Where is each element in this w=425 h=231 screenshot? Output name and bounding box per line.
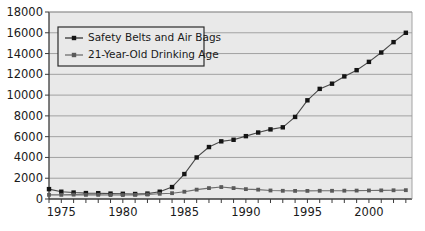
data-point-marker	[72, 193, 76, 197]
data-point-marker	[293, 189, 297, 193]
data-point-marker	[207, 186, 211, 190]
data-point-marker	[318, 87, 322, 91]
y-tick-label-10000: 10000	[6, 88, 43, 102]
data-point-marker	[47, 187, 51, 191]
data-point-marker	[244, 187, 248, 191]
data-point-marker	[391, 40, 395, 44]
data-point-marker	[146, 193, 150, 197]
data-point-marker	[330, 189, 334, 193]
legend-item-safety-belts-and-air-bags[interactable]: Safety Belts and Air Bags	[65, 31, 221, 43]
data-point-marker	[354, 68, 358, 72]
data-point-marker	[170, 185, 174, 189]
data-point-marker	[379, 188, 383, 192]
data-point-marker	[244, 134, 248, 138]
data-point-marker	[256, 130, 260, 134]
chart-legend[interactable]: Safety Belts and Air Bags21-Year-Old Dri…	[58, 27, 221, 66]
data-point-marker	[404, 31, 408, 35]
y-axis-tick-labels: 0200040006000800010000120001400016000180…	[6, 5, 43, 206]
data-point-marker	[318, 189, 322, 193]
data-point-marker	[281, 189, 285, 193]
data-point-marker	[367, 60, 371, 64]
data-point-marker	[256, 188, 260, 192]
data-point-marker	[342, 74, 346, 78]
data-point-marker	[404, 188, 408, 192]
line-chart: 0200040006000800010000120001400016000180…	[0, 0, 425, 231]
data-point-marker	[219, 139, 223, 143]
x-tick-label-1990: 1990	[231, 205, 260, 219]
data-point-marker	[84, 193, 88, 197]
data-point-marker	[281, 125, 285, 129]
y-tick-label-2000: 2000	[14, 171, 43, 185]
data-point-marker	[182, 190, 186, 194]
data-point-marker	[330, 81, 334, 85]
data-point-marker	[59, 193, 63, 197]
data-point-marker	[305, 98, 309, 102]
y-tick-label-6000: 6000	[14, 130, 43, 144]
data-point-marker	[232, 186, 236, 190]
data-point-marker	[231, 138, 235, 142]
data-point-marker	[269, 189, 273, 193]
data-point-marker	[195, 188, 199, 192]
y-tick-label-14000: 14000	[6, 47, 43, 61]
data-point-marker	[293, 115, 297, 119]
data-point-marker	[47, 193, 51, 197]
y-tick-label-18000: 18000	[6, 5, 43, 19]
x-tick-label-1975: 1975	[47, 205, 76, 219]
data-point-marker	[96, 193, 100, 197]
data-point-marker	[194, 155, 198, 159]
data-point-marker	[306, 189, 310, 193]
x-tick-label-1985: 1985	[170, 205, 199, 219]
y-tick-label-16000: 16000	[6, 26, 43, 40]
data-point-marker	[133, 193, 137, 197]
x-tick-label-2000: 2000	[354, 205, 383, 219]
data-point-marker	[170, 191, 174, 195]
x-tick-label-1980: 1980	[108, 205, 137, 219]
legend-marker-swatch	[72, 36, 76, 40]
x-tick-label-1995: 1995	[293, 205, 322, 219]
x-axis-tick-labels: 197519801985199019952000	[47, 205, 384, 219]
y-tick-label-4000: 4000	[14, 150, 43, 164]
data-point-marker	[207, 145, 211, 149]
data-point-marker	[121, 193, 125, 197]
y-tick-label-12000: 12000	[6, 67, 43, 81]
data-point-marker	[342, 189, 346, 193]
data-point-marker	[379, 50, 383, 54]
data-point-marker	[392, 188, 396, 192]
legend-label: Safety Belts and Air Bags	[88, 31, 221, 43]
data-point-marker	[219, 185, 223, 189]
data-point-marker	[158, 192, 162, 196]
data-point-marker	[109, 193, 113, 197]
y-tick-label-8000: 8000	[14, 109, 43, 123]
legend-marker-swatch	[72, 53, 76, 57]
data-point-marker	[355, 189, 359, 193]
data-point-marker	[182, 172, 186, 176]
chart-canvas: 0200040006000800010000120001400016000180…	[0, 0, 425, 231]
y-tick-label-0: 0	[36, 192, 43, 206]
legend-item-21-year-old-drinking-age[interactable]: 21-Year-Old Drinking Age	[65, 48, 219, 60]
data-point-marker	[367, 189, 371, 193]
data-point-marker	[268, 127, 272, 131]
legend-label: 21-Year-Old Drinking Age	[88, 48, 219, 60]
